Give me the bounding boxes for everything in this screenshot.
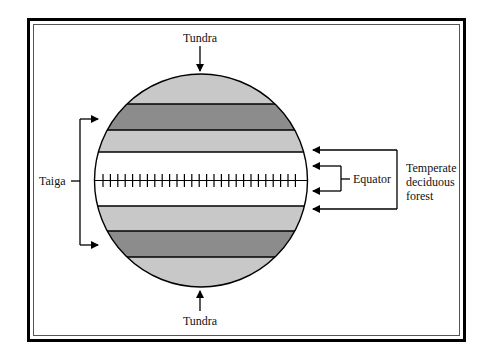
label-tundra-top: Tundra [183,32,217,45]
label-temperate-line1: Temperate [406,162,456,175]
band-tundra-north [90,70,315,104]
label-equator: Equator [353,173,391,186]
band-temperate-south [90,206,315,231]
label-temperate-line2: deciduous [406,176,455,189]
band-equatorial [90,152,315,206]
label-temperate-line3: forest [406,190,433,203]
label-tundra-bottom: Tundra [183,315,217,328]
band-temperate-north [90,130,315,152]
equator-bracket [313,166,350,191]
label-taiga: Taiga [39,175,65,188]
globe-bands [90,70,315,292]
